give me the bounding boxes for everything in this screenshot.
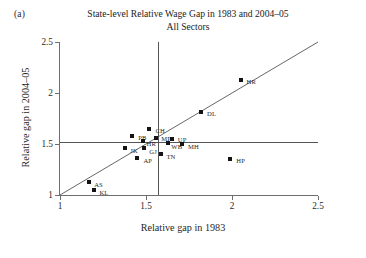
data-point (123, 146, 127, 150)
data-point-label: WB (171, 143, 182, 150)
vertical-reference-line (158, 42, 159, 195)
data-point-label: HR (247, 78, 256, 85)
data-point (228, 157, 232, 161)
y-tick-mark (55, 195, 59, 196)
data-point-label: GJ (149, 148, 157, 155)
data-point (135, 156, 139, 160)
data-point (141, 139, 145, 143)
data-point (199, 110, 203, 114)
data-point (170, 137, 174, 141)
x-tick-label: 1.5 (140, 201, 152, 211)
data-point-label: AS (94, 181, 103, 188)
data-point-label: CH (155, 127, 164, 134)
y-axis-label: Relative gap in 2004–05 (20, 38, 31, 198)
data-point-label: AP (143, 157, 152, 164)
data-point (92, 188, 96, 192)
chart-title: State-level Relative Wage Gap in 1983 an… (48, 8, 328, 33)
y-tick-label: 2.5 (41, 37, 53, 47)
identity-reference-line (60, 42, 318, 195)
y-tick-label: 2 (48, 88, 53, 98)
x-tick-mark (146, 196, 147, 200)
data-point-label: DL (207, 110, 216, 117)
x-tick-label: 2 (230, 201, 235, 211)
x-tick-mark (60, 196, 61, 200)
data-point-label: KL (99, 189, 108, 196)
data-point (166, 141, 170, 145)
x-axis-label: Relative gap in 1983 (0, 222, 366, 233)
data-point (239, 78, 243, 82)
chart-title-subtitle: All Sectors (48, 21, 328, 34)
y-tick-label: 1.5 (41, 139, 53, 149)
data-point-label: TN (166, 153, 175, 160)
data-point (87, 180, 91, 184)
plot-area: 11.522.5 11.522.5 HRDLCHPBMPHRUPMHWBJKGJ… (60, 42, 318, 195)
data-point (147, 127, 151, 131)
data-point (130, 134, 134, 138)
y-tick-label: 1 (48, 190, 53, 200)
x-tick-mark (318, 196, 319, 200)
y-tick-mark (55, 93, 59, 94)
x-tick-label: 2.5 (312, 201, 324, 211)
data-point-label: HR (147, 140, 156, 147)
data-point-label: MH (188, 143, 199, 150)
y-tick-mark (55, 144, 59, 145)
panel-label: (a) (14, 9, 25, 19)
data-point-label: HP (236, 157, 245, 164)
x-tick-label: 1 (58, 201, 63, 211)
scatter-plot-figure: (a) State-level Relative Wage Gap in 198… (0, 0, 366, 258)
data-point (142, 146, 146, 150)
y-tick-mark (55, 42, 59, 43)
x-tick-mark (232, 196, 233, 200)
chart-title-main: State-level Relative Wage Gap in 1983 an… (48, 8, 328, 21)
data-point-label: JK (130, 147, 138, 154)
data-point (159, 152, 163, 156)
